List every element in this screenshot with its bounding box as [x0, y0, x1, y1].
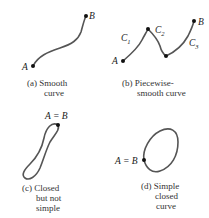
caption-line-1: (c) Closed [22, 183, 60, 193]
point-b-label: B [89, 11, 95, 21]
segment-c3-label: C3 [189, 38, 199, 50]
simple-closed-curve [144, 129, 178, 172]
caption-line-1: (d) Simple [141, 181, 179, 191]
figure-eight-curve [23, 124, 58, 179]
point-b-label: B [198, 17, 204, 27]
caption-line-2: closed [155, 191, 178, 201]
point-a-dot [121, 59, 125, 63]
point-a-equals-b-dot [56, 123, 60, 127]
caption-line-2: but not [36, 193, 62, 203]
point-a-equals-b-dot [142, 158, 146, 162]
panel-simple-closed-curve: A = B (d) Simple closed curve [114, 129, 179, 211]
point-a-equals-b-label: A = B [44, 111, 68, 121]
curve-types-figure: A B (a) Smooth curve A B C1 C2 C3 (b) Pi… [0, 0, 209, 218]
smooth-curve [33, 16, 86, 66]
point-a-label: A [111, 56, 118, 66]
caption-line-1: (a) Smooth [27, 78, 68, 88]
segment-c2-label: C2 [155, 25, 165, 37]
junction-dot [146, 27, 150, 31]
segment-c1-label: C1 [121, 33, 131, 45]
caption-line-2: smooth curve [137, 88, 186, 98]
junction-dot [164, 54, 168, 58]
caption-line-2: curve [44, 88, 64, 98]
panel-piecewise-smooth-curve: A B C1 C2 C3 (b) Piecewise- smooth curve [111, 17, 204, 98]
caption-line-3: simple [36, 203, 60, 213]
point-a-equals-b-label: A = B [114, 156, 138, 166]
point-a-dot [31, 64, 35, 68]
point-b-dot [84, 14, 88, 18]
caption-line-3: curve [156, 201, 176, 211]
point-b-dot [192, 19, 196, 23]
panel-smooth-curve: A B (a) Smooth curve [21, 11, 95, 98]
panel-closed-not-simple: A = B (c) Closed but not simple [22, 111, 68, 213]
caption-line-1: (b) Piecewise- [122, 78, 174, 88]
point-a-label: A [21, 62, 28, 72]
